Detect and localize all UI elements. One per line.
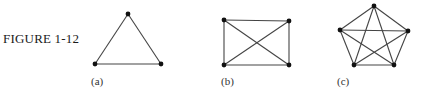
graph-vertex bbox=[287, 19, 292, 24]
panel-label-c: (c) bbox=[337, 75, 350, 88]
graph-vertex bbox=[222, 18, 227, 23]
graph-vertex bbox=[352, 63, 357, 68]
graph-edge bbox=[340, 30, 354, 65]
panel-b-rectangle-graph: (b) bbox=[221, 18, 291, 88]
panel-a-triangle-graph: (a) bbox=[91, 12, 163, 88]
graph-vertex bbox=[287, 63, 292, 68]
graph-vertex bbox=[338, 28, 343, 33]
graph-vertex bbox=[159, 62, 164, 67]
graph-vertex bbox=[126, 12, 131, 17]
graph-edge bbox=[340, 6, 374, 30]
graph-edge bbox=[374, 6, 408, 31]
graph-edge bbox=[374, 6, 394, 65]
graph-edge bbox=[354, 6, 374, 65]
graph-edge bbox=[340, 30, 408, 31]
graph-edge bbox=[394, 31, 408, 65]
panel-label-b: (b) bbox=[221, 75, 234, 88]
graph-vertex bbox=[392, 63, 397, 68]
complete-graphs-figure: (a) (b) (c) bbox=[0, 0, 427, 100]
graph-edge bbox=[128, 14, 161, 64]
graph-edge bbox=[95, 14, 128, 64]
graph-vertex bbox=[372, 4, 377, 9]
graph-vertex bbox=[93, 62, 98, 67]
graph-vertex bbox=[406, 29, 411, 34]
graph-vertex bbox=[222, 63, 227, 68]
panel-c-pentagon-graph: (c) bbox=[337, 4, 410, 88]
graph-edge bbox=[354, 31, 408, 65]
panel-label-a: (a) bbox=[91, 75, 104, 88]
graph-edge bbox=[224, 20, 289, 21]
graph-edge bbox=[340, 30, 394, 65]
